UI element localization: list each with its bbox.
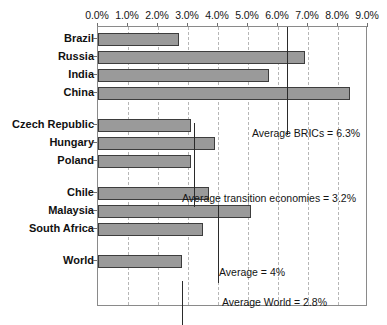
category-label: World [63, 254, 94, 267]
x-tick-label: 4.0% [205, 9, 229, 22]
category-tick [93, 192, 97, 193]
x-tick-label: 0.0% [85, 9, 109, 22]
category-label: Chile [67, 186, 94, 199]
bar [98, 33, 179, 46]
category-tick [93, 142, 97, 143]
bar-row [98, 51, 368, 64]
x-axis-tick-labels: 0.0%1.0%2.0%3.0%4.0%5.0%6.0%7.0%8.0%9.0% [0, 9, 387, 23]
category-tick [93, 210, 97, 211]
bar [98, 155, 191, 168]
x-tick-label: 5.0% [235, 9, 259, 22]
average-annotation: Average transition economies = 3.2% [182, 192, 356, 205]
category-tick [93, 124, 97, 125]
bar [98, 87, 350, 100]
bar [98, 223, 203, 236]
x-tick-label: 9.0% [355, 9, 379, 22]
category-tick [93, 260, 97, 261]
category-label: Malaysia [48, 204, 94, 217]
x-tick-label: 6.0% [265, 9, 289, 22]
category-tick [93, 160, 97, 161]
bar-row [98, 87, 368, 100]
average-reference-line [287, 27, 288, 135]
average-annotation: Average BRICs = 6.3% [252, 127, 360, 140]
bar-row [98, 205, 368, 218]
bar-row [98, 33, 368, 46]
x-axis-tick [367, 23, 368, 27]
category-label: Hungary [49, 136, 94, 149]
category-tick [93, 74, 97, 75]
x-tick-label: 8.0% [325, 9, 349, 22]
bar [98, 137, 215, 150]
category-label: Czech Republic [12, 118, 94, 131]
category-tick [93, 38, 97, 39]
category-label: China [63, 86, 94, 99]
bar-row [98, 155, 368, 168]
bar [98, 119, 191, 132]
x-tick-label: 7.0% [295, 9, 319, 22]
bar [98, 255, 182, 268]
bar [98, 69, 269, 82]
category-tick [93, 56, 97, 57]
average-annotation: Average World = 2.8% [222, 296, 327, 309]
x-tick-label: 2.0% [145, 9, 169, 22]
bar [98, 205, 251, 218]
plot-area [97, 26, 367, 306]
x-tick-label: 1.0% [115, 9, 139, 22]
bar-row [98, 223, 368, 236]
category-tick [93, 228, 97, 229]
category-label: India [68, 68, 94, 81]
category-label: South Africa [29, 222, 94, 235]
category-label: Poland [57, 154, 94, 167]
bar-row [98, 69, 368, 82]
category-tick [93, 92, 97, 93]
category-label: Brazil [64, 32, 94, 45]
category-label: Russia [58, 50, 94, 63]
average-reference-line [182, 281, 183, 325]
x-tick-label: 3.0% [175, 9, 199, 22]
average-annotation: Average = 4% [219, 266, 285, 279]
bar [98, 51, 305, 64]
